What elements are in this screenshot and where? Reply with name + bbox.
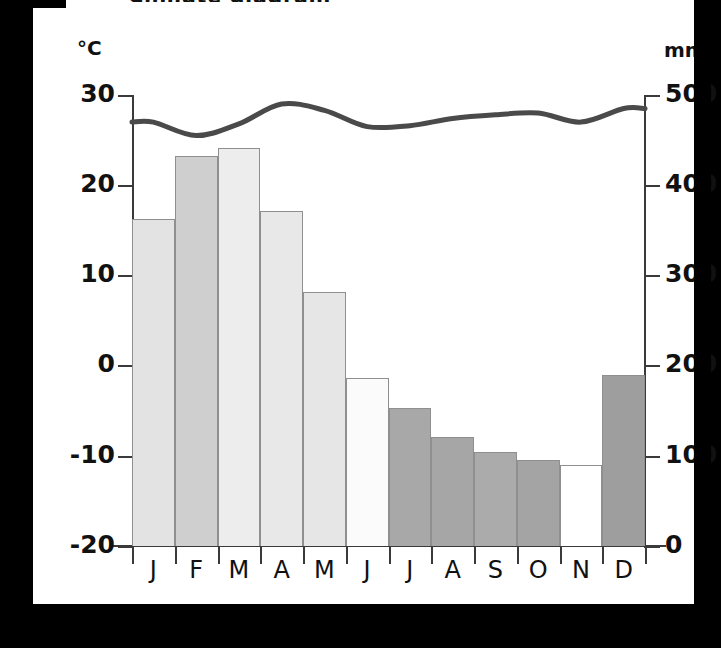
right-axis-label-0: 0 xyxy=(665,530,721,559)
left-axis-label-neg10: -10 xyxy=(53,440,115,469)
left-axis-unit-label: °C xyxy=(77,36,102,60)
chart-title-cropped: Climate diagram xyxy=(128,0,331,2)
x-axis-month-label: O xyxy=(516,556,560,584)
left-tick-neg20 xyxy=(118,546,132,548)
x-axis-month-label: A xyxy=(431,556,475,584)
chart-canvas: Climate diagram °C mm 30 20 10 0 -10 -20… xyxy=(33,0,694,604)
left-tick-20 xyxy=(118,185,132,187)
left-tick-10 xyxy=(118,275,132,277)
left-tick-30 xyxy=(118,95,132,97)
x-axis-month-label: D xyxy=(602,556,646,584)
left-tick-neg10 xyxy=(118,456,132,458)
letterbox-right xyxy=(694,8,711,648)
right-tick-300 xyxy=(646,275,660,277)
letterbox-top-left xyxy=(33,0,66,8)
right-tick-100 xyxy=(646,456,660,458)
left-axis-label-20: 20 xyxy=(53,169,115,198)
right-axis-label-100: 100 xyxy=(665,440,721,469)
temperature-curve xyxy=(132,95,645,546)
right-axis-label-300: 300 xyxy=(665,259,721,288)
left-axis-label-30: 30 xyxy=(53,79,115,108)
left-tick-0 xyxy=(118,365,132,367)
x-axis-month-label: J xyxy=(131,556,175,584)
letterbox-bottom xyxy=(0,604,711,648)
right-tick-400 xyxy=(646,185,660,187)
right-axis-label-200: 200 xyxy=(665,349,721,378)
left-axis-label-0: 0 xyxy=(53,349,115,378)
right-axis-label-500: 500 xyxy=(665,79,721,108)
x-axis-month-label: S xyxy=(473,556,517,584)
x-axis-month-label: F xyxy=(174,556,218,584)
x-axis-month-label: N xyxy=(559,556,603,584)
right-tick-0 xyxy=(646,546,660,548)
x-axis-month-label: A xyxy=(260,556,304,584)
x-axis-month-label: J xyxy=(345,556,389,584)
right-tick-200 xyxy=(646,365,660,367)
left-axis-label-10: 10 xyxy=(53,259,115,288)
letterbox-left xyxy=(0,0,33,648)
temperature-line-path xyxy=(132,103,645,135)
plot-area xyxy=(132,95,645,546)
x-axis-month-label: M xyxy=(302,556,346,584)
x-axis-month-label: M xyxy=(217,556,261,584)
left-axis-label-neg20: -20 xyxy=(53,530,115,559)
right-tick-500 xyxy=(646,95,660,97)
right-axis-label-400: 400 xyxy=(665,169,721,198)
x-axis-month-label: J xyxy=(388,556,432,584)
